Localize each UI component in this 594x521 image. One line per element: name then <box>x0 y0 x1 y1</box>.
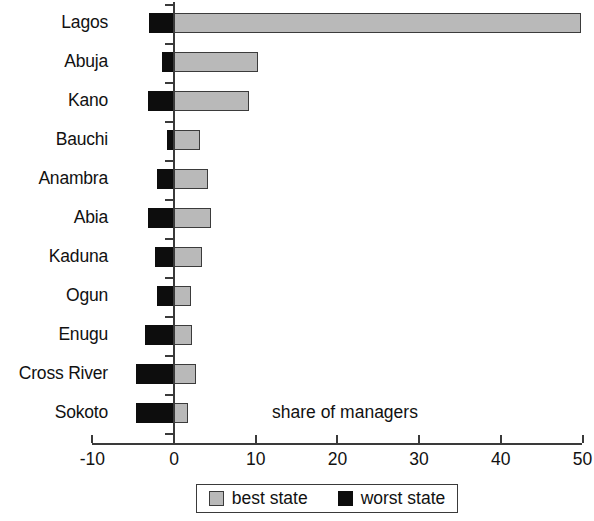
bar-best-state <box>174 169 208 189</box>
legend-swatch-best <box>209 491 224 506</box>
bar-worst-state <box>149 13 174 33</box>
category-label: Kano <box>0 92 108 110</box>
x-axis-tick <box>582 435 584 443</box>
bar-best-state <box>174 325 192 345</box>
bar-best-state <box>174 13 581 33</box>
legend-swatch-worst <box>338 491 353 506</box>
chart-legend: best stateworst state <box>196 484 458 513</box>
x-axis-tick <box>173 435 175 443</box>
category-label: Anambra <box>0 170 108 188</box>
x-axis-tick-label: 20 <box>328 451 347 469</box>
x-axis-tick-label: 50 <box>573 451 592 469</box>
legend-label: worst state <box>361 490 446 508</box>
x-axis-tick-label: 40 <box>491 451 510 469</box>
category-label: Lagos <box>0 14 108 32</box>
category-label: Enugu <box>0 326 108 344</box>
bar-best-state <box>174 91 249 111</box>
bar-best-state <box>174 52 258 72</box>
bar-worst-state <box>157 169 174 189</box>
bar-best-state <box>174 130 200 150</box>
x-axis-tick <box>336 435 338 443</box>
bar-worst-state <box>148 91 174 111</box>
bar-worst-state <box>148 208 174 228</box>
legend-item: best state <box>209 490 308 508</box>
x-axis-line <box>92 443 582 445</box>
category-label: Abuja <box>0 53 108 71</box>
category-label: Cross River <box>0 365 108 383</box>
x-axis-tick <box>255 435 257 443</box>
x-axis-annotation: share of managers <box>272 404 418 422</box>
bar-worst-state <box>136 364 174 384</box>
category-label: Kaduna <box>0 248 108 266</box>
category-label: Abia <box>0 209 108 227</box>
bar-chart: -1001020304050share of managers best sta… <box>0 0 594 521</box>
bar-worst-state <box>157 286 174 306</box>
x-axis-tick <box>418 435 420 443</box>
x-axis-tick-label: -10 <box>80 451 105 469</box>
legend-label: best state <box>232 490 308 508</box>
x-axis-tick-label: 30 <box>409 451 428 469</box>
category-label: Ogun <box>0 287 108 305</box>
bar-worst-state <box>145 325 174 345</box>
bar-best-state <box>174 364 196 384</box>
bar-worst-state <box>155 247 174 267</box>
category-label: Bauchi <box>0 131 108 149</box>
x-axis-tick <box>91 435 93 443</box>
legend-item: worst state <box>338 490 446 508</box>
bar-best-state <box>174 247 202 267</box>
x-axis-tick-label: 0 <box>169 451 179 469</box>
category-label: Sokoto <box>0 404 108 422</box>
bar-worst-state <box>136 403 174 423</box>
zero-axis-line <box>173 2 175 443</box>
x-axis-tick <box>500 435 502 443</box>
bar-best-state <box>174 286 191 306</box>
bar-best-state <box>174 403 188 423</box>
x-axis-tick-label: 10 <box>246 451 265 469</box>
bar-best-state <box>174 208 211 228</box>
